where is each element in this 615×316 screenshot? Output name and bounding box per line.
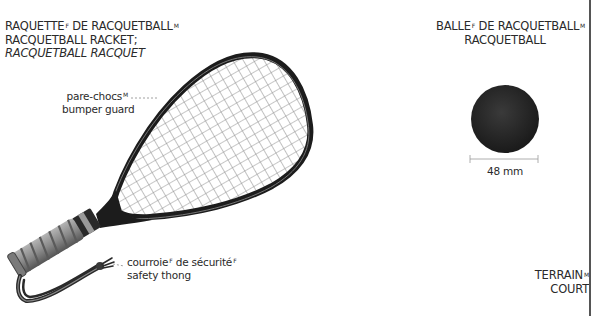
diameter-dimension — [470, 155, 538, 163]
safety-thong-en: safety thong — [127, 269, 236, 282]
ball-diameter-label: 48 mm — [480, 165, 530, 178]
racket-title-en: RACQUETBALL RACKET; — [5, 34, 179, 48]
ball-title-fr: BALLE — [436, 19, 471, 33]
gender-marker: F — [65, 22, 68, 29]
gender-marker: M — [174, 22, 179, 29]
thong-leader — [113, 264, 124, 266]
gender-marker: F — [472, 22, 475, 29]
bumper-guard-label: pare-chocsM bumper guard — [62, 90, 128, 115]
racket-title-en-alt: RACQUETBALL RACQUET — [5, 47, 179, 61]
safety-thong-label: courroieF de sécuritéF safety thong — [127, 256, 236, 281]
page-divider — [589, 0, 591, 316]
ball-title: BALLEF DE RACQUETBALLM RACQUETBALL — [436, 20, 574, 47]
racket-title-fr-rest: DE RACQUETBALL — [69, 19, 173, 33]
ball-title-en: RACQUETBALL — [436, 34, 574, 48]
racket-title: RAQUETTEF DE RACQUETBALLM RACQUETBALL RA… — [5, 20, 179, 61]
racket-handle — [7, 206, 103, 278]
gender-marker: M — [580, 22, 585, 29]
gender-marker: F — [233, 257, 236, 264]
diagram-stage: RAQUETTEF DE RACQUETBALLM RACQUETBALL RA… — [0, 0, 615, 316]
racket-head — [96, 50, 320, 230]
gender-marker: F — [169, 257, 172, 264]
racquetball — [471, 85, 539, 153]
bumper-guard-fr: pare-chocs — [66, 90, 122, 102]
safety-thong-fr: courroie — [127, 256, 168, 268]
racket-title-fr: RAQUETTE — [5, 19, 64, 33]
gender-marker: M — [123, 91, 128, 98]
ball-title-fr-rest: DE RACQUETBALL — [475, 19, 579, 33]
court-title-en: COURT — [535, 283, 589, 297]
court-title-fr: TERRAIN — [535, 268, 583, 282]
safety-thong-fr-rest: de sécurité — [173, 256, 233, 268]
court-title: TERRAINM COURT — [535, 269, 589, 296]
bumper-guard-en: bumper guard — [62, 103, 128, 116]
